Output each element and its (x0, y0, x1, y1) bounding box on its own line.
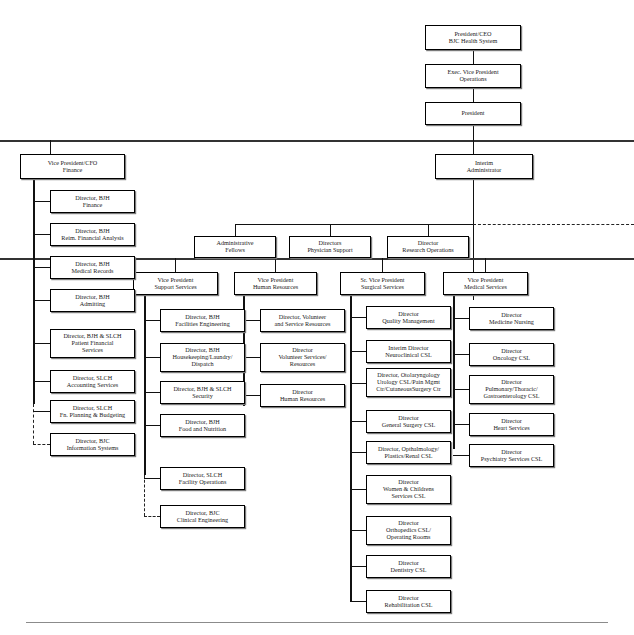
connector-staff-bus-research-ops (428, 224, 429, 236)
node-hr-child-1-label: Director Volunteer Services/ Resources (278, 347, 326, 368)
medical-stub-0 (453, 318, 469, 319)
node-surgical-child-7[interactable]: Director Dentistry CSL (366, 555, 451, 578)
connector-division-bus-medical (485, 258, 486, 272)
surgical-stub-0 (350, 317, 366, 318)
node-medical-child-3[interactable]: Director Heart Services (469, 413, 554, 436)
node-administrative-fellows[interactable]: Administrative Fellows (194, 236, 276, 258)
node-vice-president-cfo-finance[interactable]: Vice President/CFO Finance (20, 154, 125, 179)
node-president-ceo[interactable]: President/CEO BJC Health System (425, 25, 521, 50)
node-support-child-5[interactable]: Director, BJC Clinical Engineering (160, 505, 245, 528)
surgical-branch-spine (350, 295, 352, 601)
node-support-child-3[interactable]: Director, BJH Food and Nutrition (160, 414, 245, 437)
connector-bus-to-cfo (50, 140, 51, 154)
node-hr-child-2-label: Director Human Resources (280, 389, 325, 403)
node-surgical-child-0[interactable]: Director Quality Management (366, 306, 451, 329)
node-president[interactable]: President (425, 102, 521, 125)
node-surgical-child-2[interactable]: Director, Otolaryngology Urology CSL/Pai… (366, 368, 451, 397)
node-support-child-5-label: Director, BJC Clinical Engineering (177, 510, 228, 524)
node-finance-child-0[interactable]: Director, BJH Finance (50, 190, 135, 213)
node-support-child-2-label: Director, BJH & SLCH Security (173, 386, 231, 400)
surgical-stub-2 (350, 383, 366, 384)
node-medical-child-1[interactable]: Director Oncology CSL (469, 343, 554, 366)
org-chart-canvas: President/CEO BJC Health System Exec. Vi… (0, 0, 634, 635)
node-medical-child-2[interactable]: Director Pulmonary/Thoracic/ Gastroenter… (469, 375, 554, 404)
connector-division-bus-support (175, 258, 176, 272)
surgical-stub-8 (350, 601, 366, 602)
node-finance-child-4[interactable]: Director, BJH & SLCH Patient Financial S… (50, 329, 135, 358)
node-finance-child-5[interactable]: Director, SLCH Accounting Services (50, 370, 135, 393)
node-sr-vice-president-surgical-services[interactable]: Sr. Vice President Surgical Services (340, 272, 425, 295)
node-finance-child-2[interactable]: Director, BJH Medical Records (50, 256, 135, 279)
node-surgical-child-6[interactable]: Director Orthopedics CSL/ Operating Room… (366, 516, 451, 545)
hr-stub-1 (243, 357, 260, 358)
node-support-child-4-label: Director, SLCH Facility Operations (179, 472, 227, 486)
surgical-stub-1 (350, 351, 366, 352)
node-finance-child-6[interactable]: Director, SLCH Fn. Planning & Budgeting (50, 400, 135, 423)
connector-division-bus-surgical (382, 258, 383, 272)
node-finance-child-6-label: Director, SLCH Fn. Planning & Budgeting (60, 405, 125, 419)
medical-stub-2 (453, 389, 469, 390)
node-hr-child-2[interactable]: Director Human Resources (260, 384, 345, 407)
finance-stub-5 (33, 381, 50, 382)
node-support-child-2[interactable]: Director, BJH & SLCH Security (160, 381, 245, 404)
node-finance-child-1[interactable]: Director, BJH Reim. Financial Analysis (50, 223, 135, 246)
node-vice-president-human-resources[interactable]: Vice President Human Resources (234, 272, 317, 295)
node-support-child-0[interactable]: Director, BJH Facilities Engineering (160, 309, 245, 332)
node-surgical-child-5[interactable]: Director Women & Childrens Services CSL (366, 475, 451, 504)
node-vice-president-medical-services[interactable]: Vice President Medical Services (443, 272, 528, 295)
node-directors-physician-support-label: Directors Physician Support (307, 240, 352, 254)
node-vice-president-support-services[interactable]: Vice President Support Services (133, 272, 218, 295)
connector-staff-bus-admin-fellows (235, 224, 236, 236)
support-stub-5-dashed (144, 516, 160, 517)
node-directors-physician-support[interactable]: Directors Physician Support (289, 236, 371, 258)
support-branch-dashed-spine (144, 475, 145, 516)
node-surgical-child-6-label: Director Orthopedics CSL/ Operating Room… (386, 520, 431, 541)
node-surgical-child-7-label: Director Dentistry CSL (391, 560, 427, 574)
node-hr-child-1[interactable]: Director Volunteer Services/ Resources (260, 343, 345, 372)
node-interim-administrator-label: Interim Administrator (467, 160, 502, 174)
node-surgical-child-4[interactable]: Director, Opthalmology/ Plastics/Renal C… (366, 441, 451, 464)
finance-stub-2 (33, 267, 50, 268)
medical-stub-3 (453, 424, 469, 425)
node-finance-child-7[interactable]: Director, BJC Information Systems (50, 433, 135, 456)
finance-branch-dashed-spine (33, 404, 34, 444)
main-horizontal-bus (0, 140, 634, 142)
node-surgical-child-8[interactable]: Director Rehabilitation CSL (366, 590, 451, 613)
node-medical-child-3-label: Director Heart Services (493, 418, 529, 432)
node-finance-child-7-label: Director, BJC Information Systems (67, 438, 119, 452)
node-support-child-4[interactable]: Director, SLCH Facility Operations (160, 467, 245, 490)
node-surgical-child-3[interactable]: Director General Surgery CSL (366, 410, 451, 433)
finance-branch-spine (33, 179, 35, 404)
node-finance-child-0-label: Director, BJH Finance (75, 195, 109, 209)
support-branch-spine (144, 295, 146, 475)
finance-stub-3 (33, 300, 50, 301)
node-finance-child-1-label: Director, BJH Reim. Financial Analysis (61, 228, 123, 242)
node-administrative-fellows-label: Administrative Fellows (216, 240, 253, 254)
medical-stub-4 (453, 455, 469, 456)
node-interim-administrator[interactable]: Interim Administrator (435, 154, 533, 179)
node-surgical-child-2-label: Director, Otolaryngology Urology CSL/Pai… (376, 372, 441, 393)
connector-division-bus-hr (275, 258, 276, 272)
finance-stub-7-dashed (33, 444, 50, 445)
node-hr-child-0[interactable]: Director, Volunteer and Service Resource… (260, 309, 345, 332)
node-medical-child-4[interactable]: Director Psychiatry Services CSL (469, 444, 554, 467)
support-stub-1 (144, 357, 160, 358)
node-support-child-3-label: Director, BJH Food and Nutrition (179, 419, 226, 433)
node-medical-child-1-label: Director Oncology CSL (493, 348, 530, 362)
node-support-child-0-label: Director, BJH Facilities Engineering (175, 314, 229, 328)
surgical-stub-4 (350, 452, 366, 453)
surgical-stub-7 (350, 566, 366, 567)
node-finance-child-3[interactable]: Director, BJH Admitting (50, 289, 135, 312)
surgical-stub-5 (350, 489, 366, 490)
node-exec-vice-president-operations[interactable]: Exec. Vice President Operations (425, 64, 521, 88)
node-director-research-operations[interactable]: Director Research Operations (387, 236, 469, 258)
node-surgical-child-1[interactable]: Interim Director Neuroclinical CSL (366, 340, 451, 363)
surgical-stub-6 (350, 530, 366, 531)
node-medical-child-0[interactable]: Director Medicine Nursing (469, 307, 554, 330)
node-president-ceo-label: President/CEO BJC Health System (449, 31, 497, 45)
node-exec-vice-president-operations-label: Exec. Vice President Operations (447, 69, 498, 83)
support-stub-2 (144, 392, 160, 393)
node-support-child-1[interactable]: Director, BJH Housekeeping/Laundry/ Disp… (160, 343, 245, 372)
dotted-relationship-line (473, 224, 634, 225)
node-president-label: President (461, 110, 484, 117)
